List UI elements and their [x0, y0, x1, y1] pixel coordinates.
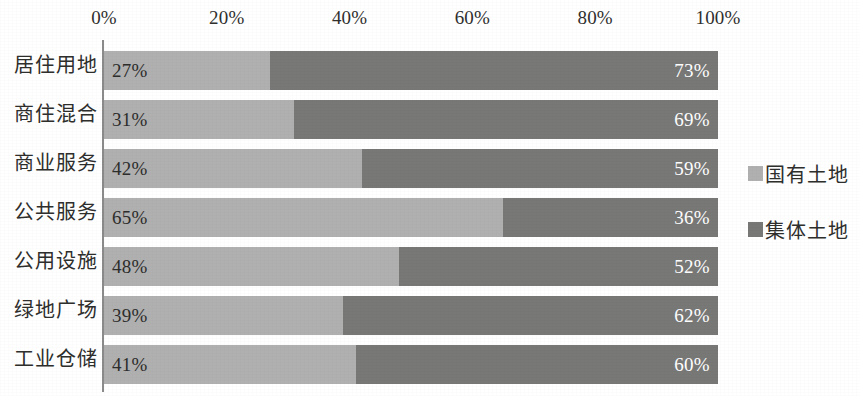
- x-tick-label: 20%: [209, 6, 244, 30]
- bar-track: 42%59%: [104, 149, 718, 188]
- bar-value-label-collective: 36%: [674, 198, 710, 237]
- stacked-bar-chart: 0%20%40%60%80%100% 居住用地27%73%商住混合31%69%商…: [0, 0, 860, 396]
- bar-track: 39%62%: [104, 296, 718, 335]
- legend-label: 国有土地: [765, 159, 849, 188]
- bar-segment-state-owned: 39%: [104, 296, 343, 335]
- legend-item[interactable]: 集体土地: [748, 214, 858, 244]
- legend-swatch-icon: [748, 166, 763, 181]
- bar-track: 65%36%: [104, 198, 718, 237]
- plot-area: 居住用地27%73%商住混合31%69%商业服务42%59%公共服务65%36%…: [0, 40, 860, 396]
- bar-segment-collective: 69%: [294, 100, 718, 139]
- x-axis: 0%20%40%60%80%100%: [0, 0, 860, 40]
- bar-segment-state-owned: 31%: [104, 100, 294, 139]
- bar-segment-collective: 36%: [503, 198, 718, 237]
- chart-legend: 国有土地集体土地: [748, 158, 858, 270]
- category-label: 商住混合: [4, 95, 98, 134]
- bar-segment-state-owned: 42%: [104, 149, 362, 188]
- bar-value-label-state-owned: 42%: [112, 149, 148, 188]
- bar-value-label-state-owned: 41%: [112, 345, 148, 384]
- category-label: 商业服务: [4, 144, 98, 183]
- bar-value-label-collective: 62%: [674, 296, 710, 335]
- bar-segment-collective: 60%: [356, 345, 718, 384]
- bar-value-label-state-owned: 39%: [112, 296, 148, 335]
- bar-segment-state-owned: 27%: [104, 51, 270, 90]
- bar-row: 商住混合31%69%: [0, 95, 860, 144]
- bar-segment-collective: 59%: [362, 149, 718, 188]
- legend-item[interactable]: 国有土地: [748, 158, 858, 188]
- bar-value-label-state-owned: 65%: [112, 198, 148, 237]
- bar-segment-state-owned: 48%: [104, 247, 399, 286]
- bar-segment-state-owned: 65%: [104, 198, 503, 237]
- bar-row: 绿地广场39%62%: [0, 291, 860, 340]
- bar-row: 公用设施48%52%: [0, 242, 860, 291]
- bar-value-label-collective: 73%: [674, 51, 710, 90]
- category-label: 公用设施: [4, 242, 98, 281]
- bar-track: 31%69%: [104, 100, 718, 139]
- legend-label: 集体土地: [765, 215, 849, 244]
- bar-row: 公共服务65%36%: [0, 193, 860, 242]
- bar-track: 27%73%: [104, 51, 718, 90]
- bar-value-label-state-owned: 27%: [112, 51, 148, 90]
- bar-segment-collective: 73%: [270, 51, 718, 90]
- legend-swatch-icon: [748, 222, 763, 237]
- bar-value-label-state-owned: 31%: [112, 100, 148, 139]
- bar-value-label-collective: 52%: [674, 247, 710, 286]
- bar-segment-state-owned: 41%: [104, 345, 356, 384]
- category-label: 居住用地: [4, 46, 98, 85]
- category-label: 工业仓储: [4, 340, 98, 379]
- bar-value-label-collective: 59%: [674, 149, 710, 188]
- bar-row: 商业服务42%59%: [0, 144, 860, 193]
- bar-segment-collective: 62%: [343, 296, 718, 335]
- bar-track: 41%60%: [104, 345, 718, 384]
- category-label: 绿地广场: [4, 291, 98, 330]
- bar-track: 48%52%: [104, 247, 718, 286]
- bar-value-label-state-owned: 48%: [112, 247, 148, 286]
- x-tick-label: 100%: [695, 6, 740, 30]
- bar-row: 居住用地27%73%: [0, 46, 860, 95]
- bar-value-label-collective: 60%: [674, 345, 710, 384]
- x-tick-label: 0%: [91, 6, 117, 30]
- x-tick-label: 60%: [455, 6, 490, 30]
- category-label: 公共服务: [4, 193, 98, 232]
- x-tick-label: 40%: [332, 6, 367, 30]
- x-tick-label: 80%: [577, 6, 612, 30]
- bar-value-label-collective: 69%: [674, 100, 710, 139]
- bar-row: 工业仓储41%60%: [0, 340, 860, 389]
- bar-segment-collective: 52%: [399, 247, 718, 286]
